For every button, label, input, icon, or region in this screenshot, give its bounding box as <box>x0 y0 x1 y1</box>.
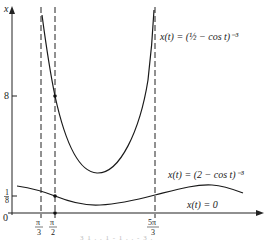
x-tick-pi3-den: 3 <box>37 228 41 237</box>
curve-half-minus-cos <box>42 10 154 173</box>
x-axis-arrow-icon <box>256 210 264 216</box>
figure-caption: 3 1 . . 1 - 1 . . - 3 . <box>80 234 153 242</box>
y-tick-label-8: 8 <box>4 90 9 101</box>
point-marker <box>53 94 57 98</box>
x-tick-pi2-den: 2 <box>51 228 55 237</box>
x-tick-pi2-num: π <box>50 218 54 227</box>
x-tick-pi3-num: π <box>36 218 40 227</box>
point-marker <box>53 211 57 215</box>
x-tick-5pi3-num: 5π <box>148 218 156 227</box>
label-upper-curve: x(t) = (½ − cos t)⁻³ <box>159 31 239 43</box>
label-lower-curve: x(t) = (2 − cos t)⁻³ <box>167 169 245 181</box>
label-zero-curve: x(t) = 0 <box>186 199 218 211</box>
y-axis-label: x <box>3 3 9 14</box>
y-axis-arrow-icon <box>9 6 15 14</box>
point-marker <box>53 194 57 198</box>
origin-label: 0 <box>3 212 8 223</box>
chart-canvas: x 0 8 1 8 π 3 π 2 5π 3 x(t) = (½ − cos t… <box>0 0 267 245</box>
y-tick-label-eighth-den: 8 <box>5 196 9 205</box>
